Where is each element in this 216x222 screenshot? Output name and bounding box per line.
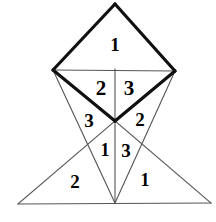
label-mid-left-3: 3 <box>84 111 94 130</box>
label-bottom-left-2: 2 <box>70 172 80 191</box>
geometric-net-figure: 1 2 3 3 2 1 3 2 1 <box>0 0 216 222</box>
label-mid-right-2: 2 <box>135 110 145 129</box>
label-upper-left-2: 2 <box>96 78 107 99</box>
label-lower-left-1: 1 <box>101 141 110 159</box>
net-diagram-svg <box>0 0 216 222</box>
label-top-1: 1 <box>110 35 120 54</box>
label-lower-right-3: 3 <box>121 141 131 160</box>
label-upper-right-3: 3 <box>124 78 135 99</box>
label-bottom-right-1: 1 <box>141 171 150 189</box>
